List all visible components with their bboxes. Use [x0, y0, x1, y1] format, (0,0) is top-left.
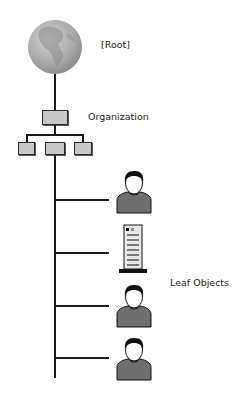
user-icon — [116, 284, 152, 328]
org-unit-box-icon — [45, 142, 65, 155]
connector-leaf-4 — [54, 357, 109, 359]
organization-label: Organization — [88, 111, 149, 122]
connector-child-3 — [82, 134, 84, 142]
connector-leaf-1 — [54, 199, 109, 201]
connector-root-org — [54, 74, 56, 111]
connector-leaf-2 — [54, 252, 109, 254]
user-icon — [116, 337, 152, 381]
org-unit-box-icon — [74, 142, 92, 155]
user-icon — [116, 170, 152, 214]
leaf-objects-label: Leaf Objects — [170, 277, 229, 288]
connector-org-branch — [26, 134, 83, 136]
server-icon — [118, 224, 148, 274]
globe-icon — [27, 19, 83, 75]
org-unit-box-icon — [18, 142, 35, 155]
connector-child-1 — [26, 134, 28, 142]
connector-leaf-3 — [54, 305, 109, 307]
org-box-icon — [42, 110, 68, 125]
root-label: [Root] — [101, 39, 130, 50]
connector-leaf-trunk — [54, 155, 56, 378]
